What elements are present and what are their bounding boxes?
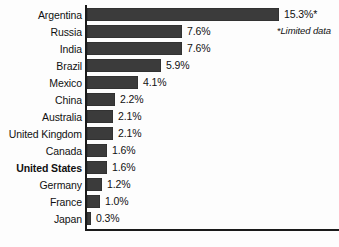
bar-container: 1.6% bbox=[87, 144, 136, 157]
category-label: Australia bbox=[0, 111, 82, 124]
bar-value-label: 2.2% bbox=[120, 93, 144, 106]
bar bbox=[87, 144, 107, 157]
bar-value-label: 1.0% bbox=[105, 195, 129, 208]
category-label: Germany bbox=[0, 179, 82, 192]
bar-value-label: 5.9% bbox=[166, 59, 190, 72]
bar bbox=[87, 178, 102, 191]
bar-container: 1.0% bbox=[87, 195, 129, 208]
bar-container: 7.6% bbox=[87, 25, 211, 38]
bar bbox=[87, 161, 107, 174]
bar-chart: Argentina15.3%*Russia7.6%India7.6%Brazil… bbox=[0, 0, 339, 247]
bar-row: Brazil5.9% bbox=[0, 58, 339, 75]
category-label: United States bbox=[0, 162, 82, 175]
bar-row: United Kingdom2.1% bbox=[0, 126, 339, 143]
bar-row: Argentina15.3%* bbox=[0, 7, 339, 24]
bar-value-label: 4.1% bbox=[143, 76, 167, 89]
bar-row: Japan0.3% bbox=[0, 211, 339, 228]
bar-container: 1.6% bbox=[87, 161, 136, 174]
category-label: United Kingdom bbox=[0, 128, 82, 141]
bar-row: Germany1.2% bbox=[0, 177, 339, 194]
bar bbox=[87, 25, 182, 38]
category-label: Canada bbox=[0, 145, 82, 158]
category-label: Argentina bbox=[0, 9, 82, 22]
bar bbox=[87, 93, 115, 106]
bar-value-label: 7.6% bbox=[187, 25, 211, 38]
bar bbox=[87, 127, 113, 140]
bar bbox=[87, 76, 138, 89]
category-label: India bbox=[0, 43, 82, 56]
x-axis-line bbox=[85, 229, 339, 231]
bar-value-label: 1.6% bbox=[112, 144, 136, 157]
bar-container: 2.2% bbox=[87, 93, 144, 106]
bar-value-label: 1.6% bbox=[112, 161, 136, 174]
bar-container: 15.3%* bbox=[87, 8, 317, 21]
bar-row: Australia2.1% bbox=[0, 109, 339, 126]
bar-container: 7.6% bbox=[87, 42, 211, 55]
footnote-limited-data: *Limited data bbox=[277, 25, 331, 36]
bar-row: Canada1.6% bbox=[0, 143, 339, 160]
bar-row: United States1.6% bbox=[0, 160, 339, 177]
category-label: Mexico bbox=[0, 77, 82, 90]
bar-value-label: 2.1% bbox=[118, 110, 142, 123]
bar-row: Mexico4.1% bbox=[0, 75, 339, 92]
bar-row: France1.0% bbox=[0, 194, 339, 211]
bar-value-label: 2.1% bbox=[118, 127, 142, 140]
category-label: Brazil bbox=[0, 60, 82, 73]
bar-value-label: 15.3%* bbox=[284, 8, 317, 21]
category-label: Japan bbox=[0, 213, 82, 226]
category-label: China bbox=[0, 94, 82, 107]
bar bbox=[87, 59, 161, 72]
bar-container: 1.2% bbox=[87, 178, 131, 191]
bar-container: 5.9% bbox=[87, 59, 190, 72]
bar-value-label: 7.6% bbox=[187, 42, 211, 55]
bar bbox=[87, 110, 113, 123]
bar bbox=[87, 8, 279, 21]
bar-value-label: 1.2% bbox=[107, 178, 131, 191]
bar-container: 2.1% bbox=[87, 110, 142, 123]
category-label: Russia bbox=[0, 26, 82, 39]
bar-row: China2.2% bbox=[0, 92, 339, 109]
bar bbox=[87, 212, 91, 225]
bar-container: 2.1% bbox=[87, 127, 142, 140]
bar-row: India7.6% bbox=[0, 41, 339, 58]
category-label: France bbox=[0, 196, 82, 209]
bar-container: 4.1% bbox=[87, 76, 167, 89]
bar-rows: Argentina15.3%*Russia7.6%India7.6%Brazil… bbox=[0, 7, 339, 228]
bar-container: 0.3% bbox=[87, 212, 120, 225]
bar bbox=[87, 195, 100, 208]
bar-value-label: 0.3% bbox=[96, 212, 120, 225]
bar bbox=[87, 42, 182, 55]
